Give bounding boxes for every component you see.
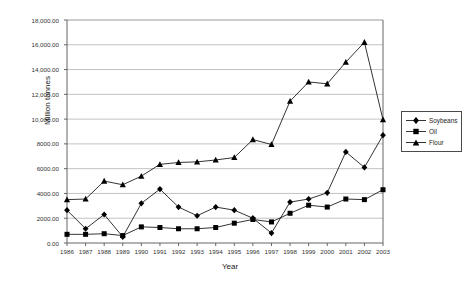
diamond-marker-icon — [405, 115, 427, 126]
square-marker-icon — [405, 126, 427, 137]
legend-item-soybeans: Soybeans — [405, 115, 457, 126]
legend-label-flour: Flour — [427, 139, 444, 146]
plot-area — [0, 0, 465, 284]
triangle-marker-icon — [405, 137, 427, 148]
legend-label-soybeans: Soybeans — [427, 117, 457, 124]
legend-item-oil: Oil — [405, 126, 457, 137]
chart-container: Million tonnes Year 18,000.0016,000.0014… — [0, 0, 465, 284]
legend-label-oil: Oil — [427, 128, 437, 135]
chart-legend: Soybeans Oil Flour — [401, 111, 462, 152]
legend-item-flour: Flour — [405, 137, 457, 148]
